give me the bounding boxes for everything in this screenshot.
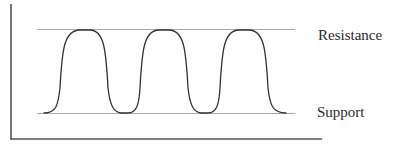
support-label: Support [317, 105, 365, 120]
resistance-label: Resistance [318, 28, 382, 43]
support-resistance-diagram: Resistance Support [0, 0, 394, 151]
price-curve [44, 30, 286, 113]
